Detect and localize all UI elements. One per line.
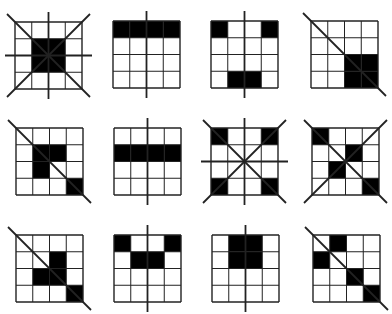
filled-cell (131, 145, 148, 162)
filled-cell (211, 21, 228, 38)
puzzle-panel-r1c2 (101, 9, 192, 100)
filled-cell (148, 145, 165, 162)
filled-cell (330, 235, 347, 252)
filled-cell (33, 269, 50, 286)
puzzle-panel-r1c1 (3, 10, 94, 101)
filled-cell (131, 252, 148, 269)
puzzle-panel-r2c1 (4, 116, 95, 207)
filled-cell (228, 71, 245, 88)
puzzle-panel-r3c3 (200, 223, 291, 314)
filled-cell (229, 252, 246, 269)
filled-cell (246, 235, 263, 252)
puzzle-panel-r3c1 (4, 223, 95, 314)
filled-cell (50, 252, 67, 269)
filled-cell (245, 71, 262, 88)
filled-cell (164, 145, 181, 162)
filled-cell (130, 21, 147, 38)
filled-cell (163, 21, 180, 38)
filled-cell (164, 235, 181, 252)
puzzle-panel-r3c2 (102, 223, 193, 314)
puzzle-panel-r2c4 (300, 116, 391, 207)
filled-cell (147, 21, 164, 38)
filled-cell (261, 21, 278, 38)
puzzle-panel-r3c4 (301, 223, 392, 314)
filled-cell (345, 71, 362, 88)
puzzle-panel-r1c3 (199, 9, 290, 100)
puzzle-panel-r1c4 (299, 9, 390, 100)
filled-cell (148, 252, 165, 269)
filled-cell (113, 21, 130, 38)
filled-cell (313, 252, 330, 269)
filled-cell (33, 162, 50, 179)
filled-cell (246, 252, 263, 269)
puzzle-panel-r2c2 (102, 116, 193, 207)
filled-cell (114, 235, 131, 252)
filled-cell (361, 55, 378, 72)
filled-cell (114, 145, 131, 162)
puzzle-panel-r2c3 (199, 116, 290, 207)
filled-cell (229, 235, 246, 252)
filled-cell (50, 145, 67, 162)
